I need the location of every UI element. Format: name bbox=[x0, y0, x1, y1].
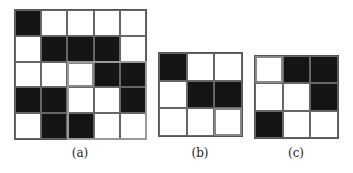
grid-b-cell-2-1 bbox=[187, 108, 215, 136]
grid-a-cell-0-2 bbox=[67, 10, 93, 36]
grid-a-cell-2-3 bbox=[94, 62, 120, 88]
grid-b-cell-1-1 bbox=[187, 81, 215, 109]
grid-b-cell-1-0 bbox=[159, 81, 187, 109]
grid-a-cell-3-3 bbox=[94, 87, 120, 113]
grid-b-cell-0-0 bbox=[159, 53, 187, 81]
grid-a-cell-3-1 bbox=[41, 87, 67, 113]
grid-a-cell-4-3 bbox=[94, 113, 120, 139]
grid-b-cell-0-1 bbox=[187, 53, 215, 81]
grid-a-cell-1-1 bbox=[41, 36, 67, 62]
grid-c bbox=[254, 55, 339, 139]
grid-a-cell-4-4 bbox=[120, 113, 146, 139]
grid-c-cell-0-2 bbox=[310, 56, 338, 83]
grid-a-cell-2-0 bbox=[15, 62, 41, 88]
grid-a-cell-3-0 bbox=[15, 87, 41, 113]
grid-a-cell-0-3 bbox=[94, 10, 120, 36]
grid-a-cell-4-1 bbox=[41, 113, 67, 139]
grid-a-cell-3-2 bbox=[67, 87, 93, 113]
grid-a-cell-1-4 bbox=[120, 36, 146, 62]
grid-a-cell-2-4 bbox=[120, 62, 146, 88]
grid-a-cell-1-3 bbox=[94, 36, 120, 62]
grid-a-cell-1-0 bbox=[15, 36, 41, 62]
grid-b-cell-2-2 bbox=[214, 108, 242, 136]
grid-c-cell-2-0 bbox=[255, 111, 283, 138]
grid-c-cell-0-1 bbox=[283, 56, 311, 83]
grid-c-cell-1-2 bbox=[310, 83, 338, 110]
grid-a-cell-1-2 bbox=[67, 36, 93, 62]
grid-a bbox=[14, 9, 147, 140]
grid-a-cell-0-1 bbox=[41, 10, 67, 36]
grid-b-cell-1-2 bbox=[214, 81, 242, 109]
grid-c-cell-2-2 bbox=[310, 111, 338, 138]
grid-c-cell-0-0 bbox=[255, 56, 283, 83]
grid-c-cell-2-1 bbox=[283, 111, 311, 138]
grid-b bbox=[158, 52, 243, 137]
grid-b-cell-2-0 bbox=[159, 108, 187, 136]
caption-a: (a) bbox=[60, 146, 100, 160]
grid-a-cell-3-4 bbox=[120, 87, 146, 113]
caption-b: (b) bbox=[180, 146, 220, 160]
grid-c-cell-1-1 bbox=[283, 83, 311, 110]
grid-c-cell-1-0 bbox=[255, 83, 283, 110]
grid-a-cell-2-1 bbox=[41, 62, 67, 88]
grid-a-cell-4-0 bbox=[15, 113, 41, 139]
grid-a-cell-4-2 bbox=[67, 113, 93, 139]
grid-a-cell-2-2 bbox=[67, 62, 93, 88]
grid-b-cell-0-2 bbox=[214, 53, 242, 81]
caption-c: (c) bbox=[276, 146, 316, 160]
grid-a-cell-0-0 bbox=[15, 10, 41, 36]
grid-a-cell-0-4 bbox=[120, 10, 146, 36]
